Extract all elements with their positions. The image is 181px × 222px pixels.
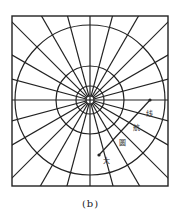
- meridian-lines: [0, 0, 181, 222]
- figure-caption: (b): [0, 198, 181, 209]
- meridian-line: [0, 0, 88, 97]
- meridian-line: [0, 0, 87, 97]
- route-label-char-4: 线: [146, 108, 153, 118]
- route-label-char-3: 航: [133, 122, 140, 132]
- meridian-line: [38, 0, 89, 96]
- route-label-char-1: 大: [103, 155, 110, 165]
- projection-diagram: [0, 0, 181, 222]
- route-label-char-2: 圆: [119, 137, 126, 147]
- meridian-line: [91, 0, 142, 96]
- route-start-point: [148, 98, 151, 101]
- route-end-point: [97, 153, 100, 156]
